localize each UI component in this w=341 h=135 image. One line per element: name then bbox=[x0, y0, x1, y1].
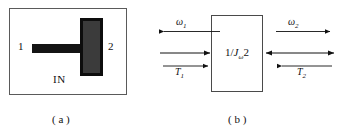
figure-canvas: 1 2 IN 1/Jω2 bbox=[0, 0, 341, 135]
omega2-symbol: ω bbox=[288, 16, 295, 27]
t1-subscript: 1 bbox=[181, 72, 185, 80]
caption-part-a: ( a ) bbox=[52, 113, 70, 125]
omega1-subscript: 1 bbox=[183, 22, 187, 30]
inertia-disc bbox=[80, 18, 103, 76]
omega1-symbol: ω bbox=[176, 16, 183, 27]
omega2-subscript: 2 bbox=[295, 22, 299, 30]
part-a-port-1-label: 1 bbox=[18, 40, 24, 52]
t2-subscript: 2 bbox=[303, 72, 307, 80]
omega2-label: ω2 bbox=[288, 16, 299, 30]
omega1-label: ω1 bbox=[176, 16, 187, 30]
part-a-port-2-label: 2 bbox=[108, 40, 114, 52]
part-b-block-label: 1/Jω2 bbox=[211, 46, 263, 61]
part-a-in-label: IN bbox=[53, 73, 66, 85]
block-label-suffix: 2 bbox=[243, 46, 249, 58]
t1-label: T1 bbox=[175, 66, 184, 80]
caption-part-b: ( b ) bbox=[228, 113, 246, 125]
block-label-prefix: 1/ bbox=[225, 46, 234, 58]
t2-label: T2 bbox=[297, 66, 306, 80]
